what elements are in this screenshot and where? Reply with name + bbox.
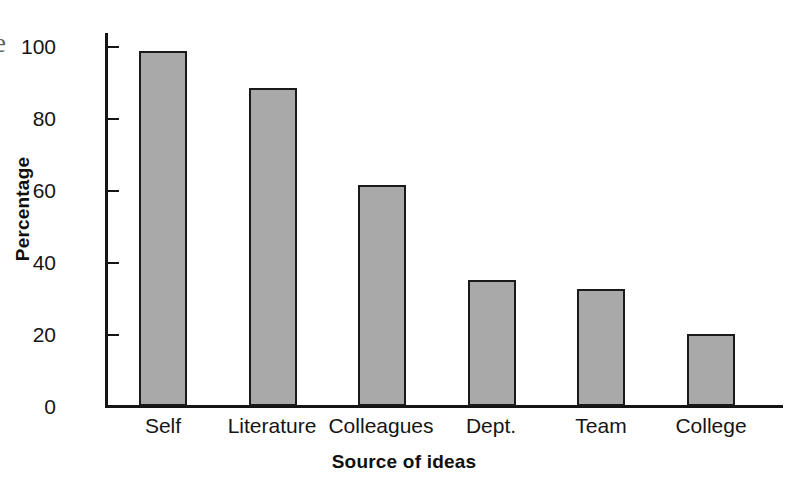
y-tick-mark-80 <box>108 118 119 120</box>
x-tick-label-college: College <box>651 414 771 438</box>
x-axis-line <box>105 405 783 408</box>
bar-literature <box>249 88 297 406</box>
x-axis-title: Source of ideas <box>0 451 808 473</box>
y-axis-line <box>105 33 108 408</box>
y-tick-label-0: 0 <box>10 396 56 417</box>
bar-colleagues <box>358 185 406 406</box>
y-tick-label-20: 20 <box>10 324 56 345</box>
bar-team <box>577 289 625 406</box>
x-tick-label-dept: Dept. <box>431 414 551 438</box>
y-axis-title: Percentage <box>12 124 34 294</box>
x-tick-label-self: Self <box>103 414 223 438</box>
bar-dept <box>468 280 516 406</box>
page-edge-cutoff-glyph: e <box>0 30 6 57</box>
x-tick-label-team: Team <box>541 414 661 438</box>
bar-self <box>139 51 187 406</box>
y-tick-mark-60 <box>108 190 119 192</box>
y-tick-mark-100 <box>108 46 119 48</box>
y-tick-mark-0 <box>108 406 119 408</box>
y-tick-label-100: 100 <box>10 36 56 57</box>
bar-chart-figure: e 0 20 40 60 80 100 Self Literature Coll… <box>0 0 808 486</box>
y-tick-mark-40 <box>108 262 119 264</box>
x-tick-label-literature: Literature <box>212 414 332 438</box>
x-tick-label-colleagues: Colleagues <box>321 414 441 438</box>
y-tick-mark-20 <box>108 334 119 336</box>
bar-college <box>687 334 735 406</box>
